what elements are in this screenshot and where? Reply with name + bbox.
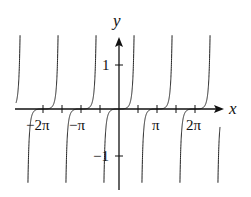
y-tick-label-neg1: −1 — [93, 149, 109, 164]
y-axis-label: y — [113, 12, 121, 29]
x-axis-label: x — [229, 100, 237, 117]
curve-branch — [218, 127, 220, 183]
x-tick-label-two-pi: 2π — [186, 118, 201, 133]
x-tick-label-neg-pi: −π — [69, 118, 85, 133]
x-tick-label-neg-two-pi: −2π — [26, 118, 50, 133]
y-tick-label-1: 1 — [102, 58, 110, 73]
curve-branch — [16, 35, 20, 103]
plot-area — [0, 0, 251, 197]
x-tick-label-pi: π — [152, 118, 160, 133]
